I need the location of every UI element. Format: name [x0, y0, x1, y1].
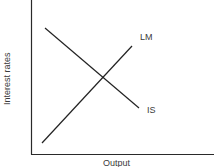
lm-label: LM — [140, 32, 153, 42]
is-curve — [45, 28, 139, 108]
y-axis-label: Interest rates — [2, 52, 12, 105]
is-label: IS — [147, 105, 156, 115]
lm-curve — [42, 46, 132, 143]
is-lm-diagram: LM IS Output Interest rates — [0, 0, 214, 167]
x-axis-label: Output — [103, 158, 131, 167]
